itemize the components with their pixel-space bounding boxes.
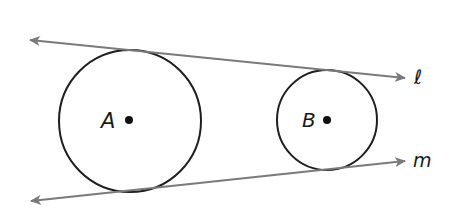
tangent-lines-diagram: A B ℓ m: [0, 0, 461, 219]
tangent-line-l: ℓ: [30, 40, 422, 89]
label-line-m: m: [413, 149, 432, 171]
label-line-l: ℓ: [413, 65, 422, 89]
label-b: B: [302, 108, 316, 132]
circle-b: B: [277, 70, 377, 170]
tangent-line-m: m: [31, 149, 432, 201]
center-point-a: [125, 116, 133, 124]
circle-a: A: [59, 50, 201, 192]
center-point-b: [323, 116, 331, 124]
label-a: A: [99, 109, 115, 133]
